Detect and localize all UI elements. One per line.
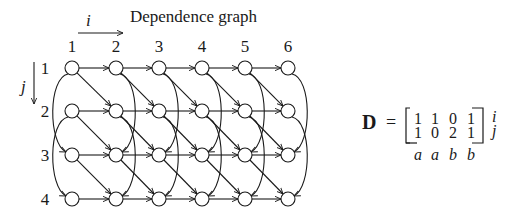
graph-node: [281, 104, 295, 118]
j-axis-label: j: [19, 77, 26, 96]
row-label: 2: [41, 102, 50, 121]
row-label: 1: [41, 59, 50, 78]
row-label: 4: [41, 190, 50, 209]
graph-node: [152, 61, 166, 75]
graph-node: [65, 104, 79, 118]
equals-sign: =: [386, 112, 396, 132]
graph-node: [238, 61, 252, 75]
matrix-left-bracket: [406, 108, 410, 143]
matrix-cell: 1: [414, 124, 422, 141]
diagonal-edge: [164, 160, 197, 194]
graph-node: [109, 148, 123, 162]
graph-node: [152, 104, 166, 118]
matrix-column-label: b: [449, 146, 457, 163]
graph-node: [238, 104, 252, 118]
graph-node: [238, 192, 252, 206]
diagonal-edge: [207, 160, 240, 194]
matrix-cell: 2: [449, 124, 457, 141]
graph-node: [152, 192, 166, 206]
matrix-row-label: j: [490, 122, 497, 140]
dependence-matrix: D = 1 1 0 1 1 0 2 1 i j a a b b: [362, 108, 497, 163]
graph-node: [238, 148, 252, 162]
diagonal-edge: [77, 160, 111, 194]
column-label: 4: [198, 37, 207, 56]
matrix-column-label: b: [467, 146, 475, 163]
matrix-column-label: a: [414, 146, 422, 163]
column-label: 6: [284, 37, 293, 56]
graph-node: [195, 192, 209, 206]
matrix-cell: 1: [467, 124, 475, 141]
row-label: 3: [41, 146, 50, 165]
graph-node: [195, 104, 209, 118]
graph-node: [281, 61, 295, 75]
column-label: 1: [68, 37, 77, 56]
graph-node: [195, 61, 209, 75]
graph-node: [281, 192, 295, 206]
row-labels: 1 2 3 4: [41, 59, 50, 209]
graph-node: [65, 61, 79, 75]
diagonal-edge: [121, 160, 154, 194]
graph-node: [109, 61, 123, 75]
graph-node: [281, 148, 295, 162]
i-axis-label: i: [86, 11, 91, 30]
graph-title: Dependence graph: [130, 7, 257, 26]
graph-node: [65, 192, 79, 206]
graph-node: [109, 192, 123, 206]
graph-edges: [53, 68, 308, 199]
graph-node: [195, 148, 209, 162]
column-label: 3: [155, 37, 164, 56]
column-label: 2: [112, 37, 121, 56]
diagonal-edge: [77, 73, 111, 106]
matrix-name: D: [362, 111, 376, 133]
graph-node: [152, 148, 166, 162]
graph-node: [65, 148, 79, 162]
dependence-graph-diagram: Dependence graph i j 1 2 3 4 5 6 1 2 3 4…: [0, 0, 522, 217]
matrix-column-label: a: [431, 146, 439, 163]
diagonal-edge: [250, 160, 283, 194]
column-labels: 1 2 3 4 5 6: [68, 37, 293, 56]
graph-node: [109, 104, 123, 118]
column-label: 5: [241, 37, 250, 56]
matrix-cell: 0: [431, 124, 439, 141]
diagonal-edge: [77, 116, 111, 150]
